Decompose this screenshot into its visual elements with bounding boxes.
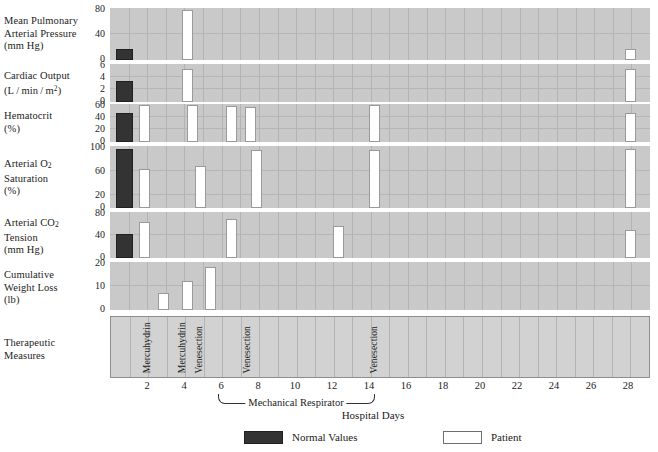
gridline-v: [371, 8, 372, 60]
gridline-h: [110, 194, 650, 195]
bar-normal-value: [116, 81, 133, 102]
gridline-v: [538, 212, 539, 258]
gridline-v: [333, 146, 334, 208]
panel-cardiac-output: Cardiac Output (L / min / m2) 6 4 2 0: [0, 64, 658, 102]
gridline-v: [538, 64, 539, 102]
bar-patient: [195, 166, 206, 208]
gridline-v: [222, 212, 223, 258]
plot-area-weight-loss: [110, 262, 650, 310]
gridline-v: [352, 146, 353, 208]
gridline-v: [408, 8, 409, 60]
bar-patient: [139, 222, 150, 258]
gridline-v: [556, 317, 557, 377]
x-tick: 10: [290, 380, 301, 392]
gridline-v: [240, 104, 241, 142]
plot-area-hematocrit: [110, 104, 650, 142]
plot-area-pulmonary: [110, 8, 650, 60]
gridline-v: [557, 104, 558, 142]
gridline-v: [613, 64, 614, 102]
gridline-v: [501, 146, 502, 208]
y-axis-pulmonary: 80 40 0: [78, 8, 108, 60]
panel-cumulative-weight-loss: Cumulative Weight Loss (lb) 20 10 0: [0, 262, 658, 310]
gridline-v: [593, 317, 594, 377]
gridline-v: [389, 8, 390, 60]
gridline-v: [594, 146, 595, 208]
gridline-v: [240, 64, 241, 102]
gridline-v: [389, 262, 390, 310]
gridline-v: [147, 8, 148, 60]
x-axis-title: Hospital Days: [342, 409, 405, 422]
panel-label-line: Therapeutic: [4, 337, 90, 350]
gridline-v: [464, 64, 465, 102]
chart-figure: Mean Pulmonary Arterial Pressure (mm Hg)…: [0, 0, 658, 452]
gridline-v: [612, 317, 613, 377]
therapy-event-label: Mercuhydrin: [142, 322, 152, 373]
gridline-v: [184, 146, 185, 208]
gridline-v: [427, 262, 428, 310]
gridline-v: [240, 212, 241, 258]
x-tick: 24: [549, 380, 560, 392]
gridline-v: [520, 146, 521, 208]
y-tick: 6: [100, 60, 105, 70]
y-tick: 10: [95, 281, 105, 291]
bar-patient: [625, 49, 636, 60]
y-axis-cardiac-output: 6 4 2 0: [78, 64, 108, 102]
gridline-h: [110, 234, 650, 235]
gridline-v: [203, 8, 204, 60]
gridline-v: [501, 104, 502, 142]
gridline-v: [352, 64, 353, 102]
gridline-v: [482, 212, 483, 258]
x-tick: 8: [255, 380, 260, 392]
gridline-v: [147, 262, 148, 310]
gridline-v: [278, 212, 279, 258]
gridline-v: [352, 262, 353, 310]
gridline-v: [501, 212, 502, 258]
x-tick: 4: [181, 380, 186, 392]
y-tick: 0: [100, 304, 105, 314]
gridline-v: [594, 104, 595, 142]
panel-label-line: Measures: [4, 350, 90, 363]
y-axis-hematocrit: 60 40 20 0: [78, 104, 108, 142]
legend-item-normal-values: Normal Values: [244, 430, 357, 444]
gridline-v: [427, 146, 428, 208]
gridline-v: [631, 262, 632, 310]
bar-patient: [625, 69, 636, 102]
gridline-v: [389, 104, 390, 142]
gridline-v: [203, 64, 204, 102]
legend-swatch-normal: [244, 431, 283, 444]
bar-patient: [139, 105, 150, 142]
gridline-v: [520, 262, 521, 310]
therapy-event-label: Venesection: [194, 326, 204, 373]
bar-patient: [158, 293, 169, 310]
gridline-v: [557, 262, 558, 310]
gridline-v: [166, 146, 167, 208]
mechanical-respirator-annotation: Mechanical Respirator: [110, 394, 650, 410]
gridline-v: [482, 8, 483, 60]
bar-patient: [226, 219, 237, 258]
y-tick: 40: [95, 230, 105, 240]
gridline-v: [575, 317, 576, 377]
x-tick: 12: [327, 380, 338, 392]
gridline-v: [576, 146, 577, 208]
gridline-v: [464, 104, 465, 142]
gridline-v: [315, 212, 316, 258]
bar-patient: [245, 107, 256, 142]
gridline-v: [538, 146, 539, 208]
bar-patient: [369, 150, 380, 208]
y-tick: 20: [95, 190, 105, 200]
gridline-v: [278, 262, 279, 310]
gridline-v: [184, 212, 185, 258]
bar-patient: [182, 10, 193, 60]
gridline-v: [278, 64, 279, 102]
gridline-v: [315, 104, 316, 142]
bar-patient: [139, 169, 150, 208]
gridline-v: [315, 146, 316, 208]
legend-label-normal: Normal Values: [292, 430, 357, 444]
gridline-v: [501, 317, 502, 377]
bar-patient: [625, 149, 636, 208]
gridline-v: [426, 317, 427, 377]
gridline-v: [203, 212, 204, 258]
gridline-v: [167, 317, 168, 377]
x-tick: 26: [586, 380, 597, 392]
gridline-v: [557, 212, 558, 258]
